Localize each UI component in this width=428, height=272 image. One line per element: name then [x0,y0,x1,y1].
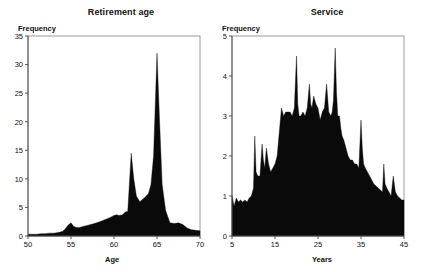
x-axis-tick-label: 15 [271,240,279,249]
y-axis-tick-label: 2 [223,152,227,161]
y-axis-tick-label: 10 [15,175,23,184]
chart-panel-service: Service Frequency Years 012345515253545 [214,0,428,272]
x-axis-tick-label: 5 [230,240,234,249]
y-axis-tick-label: 0 [19,232,23,241]
y-axis-tick-label: 5 [19,203,23,212]
x-axis-tick-label: 70 [196,240,204,249]
x-axis-tick-label: 50 [24,240,32,249]
x-axis-tick-label: 25 [314,240,322,249]
y-axis-tick-label: 20 [15,118,23,127]
x-axis-tick-label: 60 [110,240,118,249]
plot-area-service: 012345515253545 [214,0,428,272]
y-axis-tick-label: 15 [15,146,23,155]
y-axis-tick-label: 5 [223,32,227,41]
density-area [232,48,404,236]
x-axis-tick-label: 55 [67,240,75,249]
x-axis-tick-label: 35 [357,240,365,249]
chart-panel-retirement: Retirement age Frequency Age 05101520253… [0,0,214,272]
y-axis-tick-label: 25 [15,89,23,98]
plot-area-retirement: 051015202530355055606570 [0,0,214,272]
plot-frame [28,36,200,236]
y-axis-tick-label: 30 [15,60,23,69]
y-axis-tick-label: 0 [223,232,227,241]
x-axis-tick-label: 45 [400,240,408,249]
x-axis-tick-label: 65 [153,240,161,249]
y-axis-tick-label: 4 [223,72,227,81]
y-axis-tick-label: 35 [15,32,23,41]
chart-page: Retirement age Frequency Age 05101520253… [0,0,428,272]
y-axis-tick-label: 1 [223,192,227,201]
density-area [28,53,200,236]
y-axis-tick-label: 3 [223,112,227,121]
